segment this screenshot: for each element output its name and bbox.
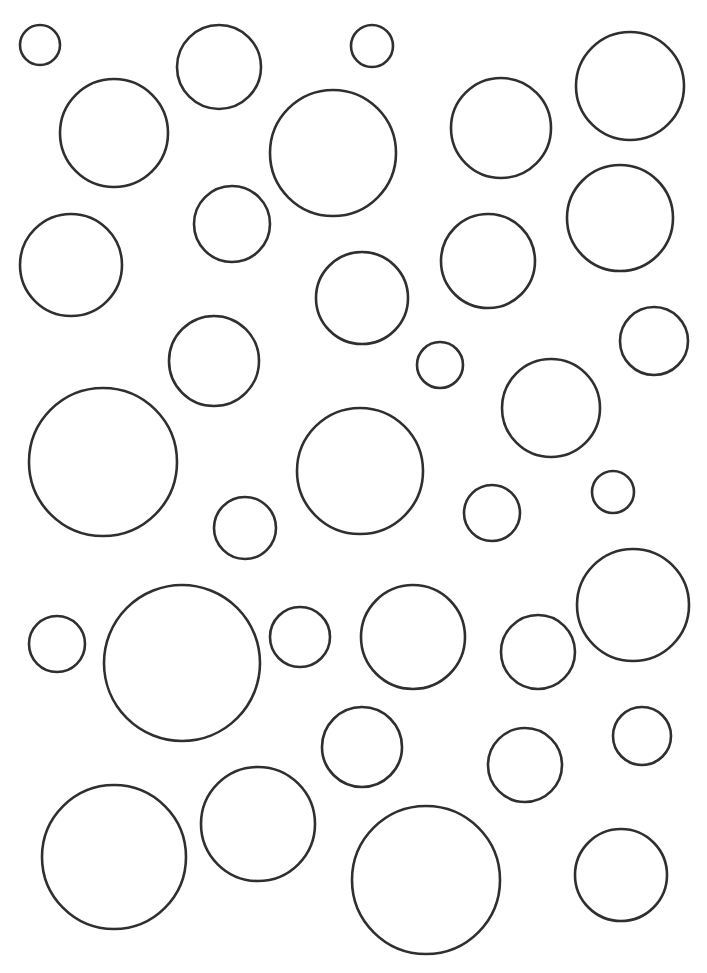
circle-outline-7	[451, 78, 551, 178]
circle-outline-18	[297, 408, 423, 534]
circle-outline-31	[42, 785, 186, 929]
circle-outline-23	[104, 585, 260, 741]
circle-outline-32	[201, 767, 315, 881]
circle-outline-2	[177, 25, 261, 109]
circle-outline-26	[501, 615, 575, 689]
circle-outline-33	[352, 806, 500, 954]
circle-outline-25	[361, 585, 465, 689]
circle-outline-14	[417, 342, 463, 388]
circle-outline-17	[29, 388, 177, 536]
circle-outline-16	[502, 359, 600, 457]
circle-outline-30	[613, 707, 671, 765]
circle-outline-1	[20, 25, 60, 65]
circle-outline-34	[575, 829, 667, 921]
circle-outline-20	[464, 485, 520, 541]
circle-outline-21	[592, 471, 634, 513]
circle-outline-8	[194, 186, 270, 262]
circles-layer	[0, 0, 707, 973]
circle-outline-6	[270, 90, 396, 216]
circle-outline-28	[322, 707, 402, 787]
circle-outline-9	[567, 165, 673, 271]
circle-outline-11	[441, 214, 535, 308]
circle-outline-15	[620, 307, 688, 375]
circle-pattern-canvas	[0, 0, 707, 973]
circle-outline-13	[169, 316, 259, 406]
circle-outline-22	[29, 616, 85, 672]
circle-outline-12	[316, 252, 408, 344]
circle-outline-4	[576, 32, 684, 140]
circle-outline-5	[60, 79, 168, 187]
circle-outline-10	[20, 214, 122, 316]
circle-outline-19	[214, 497, 276, 559]
circle-outline-3	[351, 25, 393, 67]
circle-outline-27	[577, 549, 689, 661]
circle-outline-24	[270, 607, 330, 667]
circle-outline-29	[488, 728, 562, 802]
